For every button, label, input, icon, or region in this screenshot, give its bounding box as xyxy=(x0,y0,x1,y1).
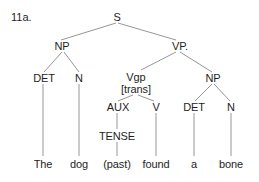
syntax-tree-diagram: 11a. S NP VP. DET N Vgp [trans] NP AUX V… xyxy=(0,0,259,182)
node-s: S xyxy=(113,11,120,23)
example-number: 11a. xyxy=(11,11,32,23)
node-vgp: Vgp xyxy=(126,71,145,83)
edge-npobj-det xyxy=(195,84,212,101)
word-a: a xyxy=(191,158,197,170)
node-n-subject: N xyxy=(75,72,83,84)
node-tense: TENSE xyxy=(99,130,135,142)
node-vp: VP. xyxy=(172,40,188,52)
node-vgp-feature: [trans] xyxy=(121,83,151,95)
node-np-object: NP xyxy=(205,72,220,84)
word-found: found xyxy=(142,158,169,170)
node-det-object: DET xyxy=(183,101,205,113)
word-the: The xyxy=(34,158,53,170)
edge-np-det xyxy=(44,52,62,72)
node-v: V xyxy=(152,101,159,113)
edge-vp-vgp xyxy=(141,52,176,70)
word-bone: bone xyxy=(219,158,243,170)
node-np-subject: NP xyxy=(54,40,69,52)
node-n-object: N xyxy=(227,101,235,113)
word-dog: dog xyxy=(70,158,88,170)
edge-np-n xyxy=(64,52,79,72)
node-aux: AUX xyxy=(107,101,129,113)
edge-vp-np xyxy=(180,52,212,72)
node-det-subject: DET xyxy=(33,72,55,84)
edge-s-np xyxy=(61,23,116,40)
edge-npobj-n xyxy=(214,84,230,101)
word-past: (past) xyxy=(103,158,131,170)
edge-s-vp xyxy=(118,23,176,40)
